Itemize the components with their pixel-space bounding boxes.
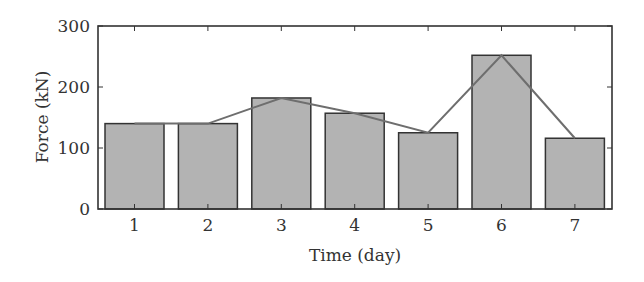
x-tick-label: 4 <box>349 215 360 235</box>
y-tick-label: 0 <box>79 199 90 219</box>
bar-day-4 <box>325 113 384 209</box>
x-axis-label: Time (day) <box>309 245 401 265</box>
bar-day-7 <box>545 138 604 209</box>
x-tick-label: 3 <box>276 215 287 235</box>
x-tick-label: 6 <box>496 215 507 235</box>
bar-day-2 <box>178 124 237 209</box>
bars-group <box>105 55 604 209</box>
y-tick-label: 200 <box>58 77 90 97</box>
x-tick-label: 1 <box>129 215 140 235</box>
x-tick-label: 2 <box>202 215 213 235</box>
x-tick-label: 7 <box>569 215 580 235</box>
bar-day-5 <box>399 133 458 209</box>
y-tick-label: 300 <box>58 16 90 36</box>
force-bar-chart: 0100200300 1234567 Time (day) Force (kN) <box>0 0 644 282</box>
x-tick-label: 5 <box>423 215 434 235</box>
y-axis-label: Force (kN) <box>32 71 52 164</box>
bar-day-3 <box>252 98 311 209</box>
y-tick-label: 100 <box>58 138 90 158</box>
bar-day-1 <box>105 124 164 209</box>
